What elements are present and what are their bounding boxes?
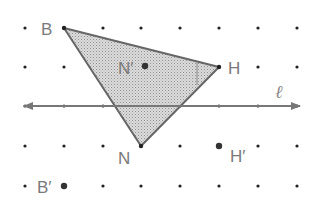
reflection-diagram: ℓ B H N N′ H′ B′: [0, 0, 325, 211]
grid-dot: [62, 65, 65, 68]
grid-dot: [178, 144, 181, 147]
label-h: H: [228, 59, 240, 78]
triangle-bhn: [64, 28, 219, 146]
grid-dot: [23, 144, 26, 147]
point-b-prime: [61, 183, 67, 189]
grid-dot: [101, 184, 104, 187]
grid-dot: [256, 65, 259, 68]
grid-dot: [178, 26, 181, 29]
point-n-prime: [142, 63, 148, 69]
grid-dot: [295, 184, 298, 187]
grid-dot: [295, 65, 298, 68]
label-b-prime: B′: [37, 178, 52, 197]
vertex-h-dot: [217, 65, 221, 69]
label-h-prime: H′: [230, 147, 245, 166]
grid-dot: [256, 26, 259, 29]
grid-dot: [139, 184, 142, 187]
grid-dot: [217, 26, 220, 29]
grid-dot: [101, 26, 104, 29]
grid-dot: [23, 26, 26, 29]
point-h-prime: [216, 143, 222, 149]
grid-dot: [256, 144, 259, 147]
label-n: N: [118, 149, 130, 168]
vertex-n-dot: [139, 144, 143, 148]
grid-dot: [23, 184, 26, 187]
grid-dot: [23, 65, 26, 68]
grid-dot: [101, 144, 104, 147]
grid-dot: [217, 184, 220, 187]
grid-dot: [178, 184, 181, 187]
vertex-b-dot: [62, 26, 66, 30]
grid-dot: [139, 26, 142, 29]
grid-dot: [256, 184, 259, 187]
line-l-label: ℓ: [275, 82, 283, 102]
label-n-prime: N′: [118, 59, 133, 78]
label-b: B: [41, 20, 52, 39]
grid-dot: [295, 144, 298, 147]
grid-dot: [62, 144, 65, 147]
grid-dot: [295, 26, 298, 29]
